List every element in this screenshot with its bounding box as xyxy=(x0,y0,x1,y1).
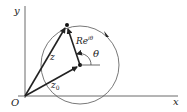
z-label: z xyxy=(49,52,55,62)
origin-label: O xyxy=(11,97,19,108)
radius-base: Re xyxy=(75,36,88,46)
y-axis-label: y xyxy=(13,5,20,16)
z0-subscript: 0 xyxy=(56,84,60,91)
radius-superscript: iθ xyxy=(88,35,94,41)
z0-label: z0 xyxy=(50,80,60,91)
x-axis-label: x xyxy=(173,96,179,107)
complex-plane-diagram: y x O z z0 Reiθ θ xyxy=(0,0,187,112)
radius-label: Reiθ xyxy=(75,35,94,46)
circle-direction-arrow-icon xyxy=(104,31,109,37)
theta-label: θ xyxy=(93,48,99,59)
vector-radius xyxy=(68,29,80,65)
point-z xyxy=(65,23,69,27)
